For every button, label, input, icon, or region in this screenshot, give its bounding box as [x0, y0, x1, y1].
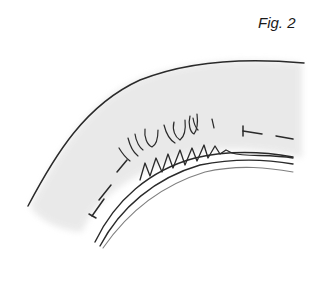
inner-boundary-line-3 — [103, 167, 293, 248]
figure-drawing — [0, 0, 323, 292]
shaded-band — [30, 61, 302, 232]
